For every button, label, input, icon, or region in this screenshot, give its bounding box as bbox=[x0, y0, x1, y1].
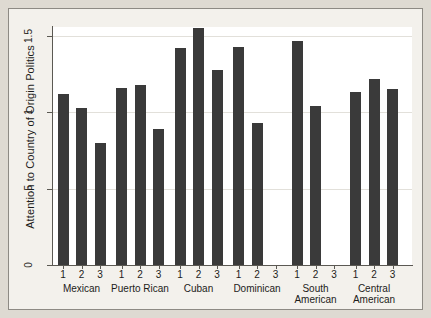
bar bbox=[310, 106, 321, 265]
x-tick-label: 2 bbox=[190, 269, 208, 280]
group-label: CentralAmerican bbox=[329, 283, 419, 305]
bar bbox=[116, 88, 127, 265]
y-tick-mark bbox=[47, 189, 52, 190]
bar bbox=[387, 89, 398, 265]
x-tick-label: 3 bbox=[325, 269, 343, 280]
chart-figure: 0.511.5 123123123123123123 MexicanPuerto… bbox=[0, 0, 431, 318]
x-axis-line bbox=[52, 265, 413, 266]
x-tick-label: 1 bbox=[288, 269, 306, 280]
bar bbox=[233, 47, 244, 265]
y-tick-mark bbox=[47, 112, 52, 113]
group-label-line: Central bbox=[329, 283, 419, 294]
y-axis-line bbox=[52, 26, 53, 266]
bar bbox=[135, 85, 146, 265]
bar bbox=[58, 94, 69, 265]
x-tick-label: 1 bbox=[54, 269, 72, 280]
x-tick-label: 2 bbox=[131, 269, 149, 280]
gridline bbox=[53, 36, 412, 37]
bar bbox=[292, 41, 303, 265]
bar bbox=[153, 129, 164, 265]
x-tick-label: 2 bbox=[248, 269, 266, 280]
x-tick-label: 3 bbox=[384, 269, 402, 280]
x-tick-label: 3 bbox=[91, 269, 109, 280]
y-tick-mark bbox=[47, 36, 52, 37]
y-axis-title: Attention to Country of Origin Politics bbox=[24, 22, 36, 252]
x-tick-label: 3 bbox=[150, 269, 168, 280]
bar bbox=[350, 92, 361, 265]
x-tick-label: 3 bbox=[208, 269, 226, 280]
x-tick-label: 3 bbox=[267, 269, 285, 280]
x-tick-label: 1 bbox=[230, 269, 248, 280]
x-tick-label: 2 bbox=[365, 269, 383, 280]
bar bbox=[212, 70, 223, 265]
x-tick-label: 1 bbox=[171, 269, 189, 280]
bar bbox=[252, 123, 263, 265]
bar bbox=[76, 108, 87, 265]
x-tick-label: 2 bbox=[73, 269, 91, 280]
y-tick-mark bbox=[47, 265, 52, 266]
bar bbox=[369, 79, 380, 265]
bar bbox=[95, 143, 106, 265]
x-tick-label: 1 bbox=[347, 269, 365, 280]
bar bbox=[175, 48, 186, 265]
x-tick-label: 1 bbox=[113, 269, 131, 280]
x-tick-label: 2 bbox=[307, 269, 325, 280]
bar bbox=[193, 28, 204, 265]
y-tick-label: 0 bbox=[24, 252, 34, 278]
group-label-line: American bbox=[329, 294, 419, 305]
